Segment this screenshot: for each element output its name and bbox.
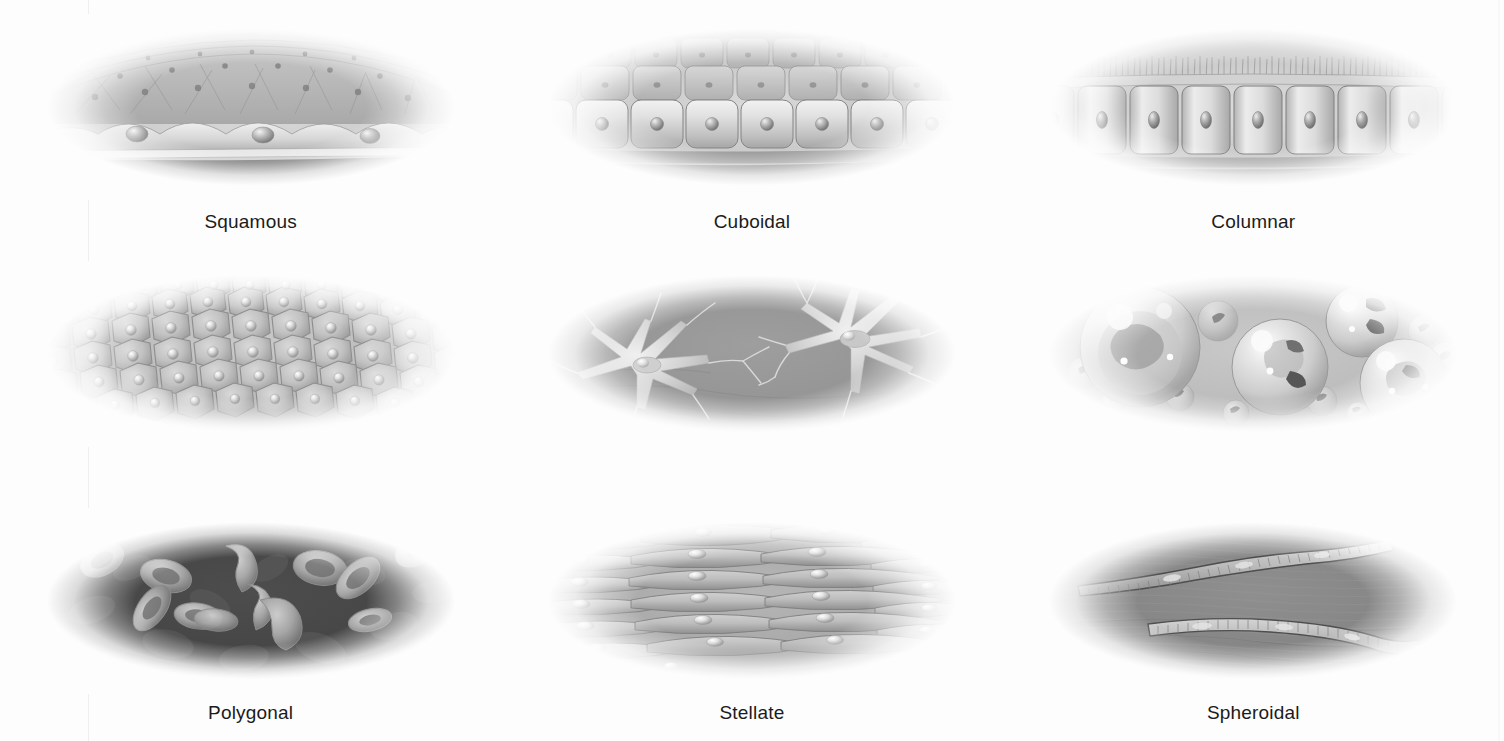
- panel-label-cuboidal: Cuboidal: [501, 211, 1002, 233]
- panel-label-squamous: Squamous: [0, 211, 501, 233]
- stellate-cells-illustration: [521, 261, 983, 447]
- panel-fusiform: Fusiform (spindle-shaped): [501, 494, 1002, 741]
- fusiform-cells-illustration: [521, 508, 983, 694]
- panel-label-columnar: Columnar: [1003, 211, 1504, 233]
- cell-shapes-figure: Squamous: [0, 0, 1504, 741]
- panel-discoid: Discoid: [0, 494, 501, 741]
- panel-polygonal: Polygonal: [0, 247, 501, 494]
- panel-cuboidal: Cuboidal: [501, 0, 1002, 247]
- panel-spheroidal: Spheroidal: [1003, 247, 1504, 494]
- spheroidal-cells-illustration: [1022, 261, 1484, 447]
- panel-stellate: Stellate: [501, 247, 1002, 494]
- polygonal-cells-illustration: [20, 261, 482, 447]
- fibrous-cells-illustration: [1022, 508, 1484, 694]
- panel-columnar: Columnar: [1003, 0, 1504, 247]
- columnar-epithelium-illustration: [1022, 14, 1484, 200]
- squamous-epithelium-illustration: [20, 14, 482, 200]
- cuboidal-epithelium-illustration: [521, 14, 983, 200]
- panel-squamous: Squamous: [0, 0, 501, 247]
- discoid-cells-illustration: [20, 508, 482, 694]
- panel-fibrous: Fibrous: [1003, 494, 1504, 741]
